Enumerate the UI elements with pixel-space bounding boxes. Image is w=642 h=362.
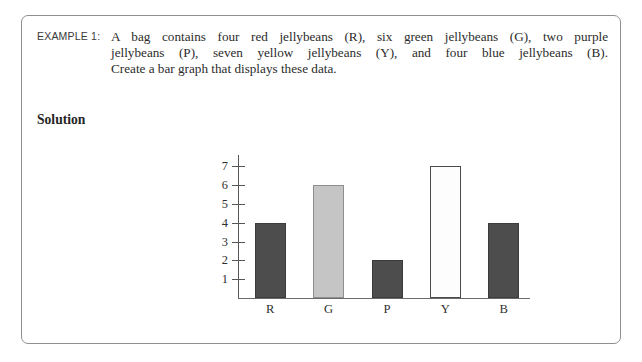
y-axis-label-4: 4: [198, 217, 228, 229]
y-axis-tick-3: [232, 242, 245, 243]
y-axis-tick-1: [232, 279, 245, 280]
page-canvas: EXAMPLE 1: A bag contains four red jelly…: [0, 0, 642, 362]
y-axis-label-3: 3: [198, 236, 228, 248]
y-axis-line: [238, 155, 239, 299]
bar-chart: 7654321 RGPYB: [196, 149, 516, 324]
example-label: EXAMPLE 1:: [37, 30, 100, 42]
example-container: EXAMPLE 1: A bag contains four red jelly…: [21, 15, 621, 344]
example-body-text: A bag contains four red jellybeans (R), …: [111, 29, 608, 78]
bar-p: [372, 260, 403, 298]
y-axis-tick-labels: 7654321: [196, 149, 228, 304]
bar-b: [488, 223, 519, 298]
y-axis-tick-4: [232, 223, 245, 224]
x-axis-label-p: P: [367, 303, 407, 316]
y-axis-label-5: 5: [198, 198, 228, 210]
y-axis-label-7: 7: [198, 160, 228, 172]
y-axis-label-1: 1: [198, 273, 228, 285]
y-axis-tick-2: [232, 260, 245, 261]
example-body-line-1: A bag contains four red jellybeans (R), …: [111, 29, 608, 45]
y-axis-label-2: 2: [198, 254, 228, 266]
x-axis-line: [238, 298, 530, 299]
x-axis-label-b: B: [484, 303, 524, 316]
bar-r: [255, 223, 286, 298]
y-axis-label-6: 6: [198, 179, 228, 191]
example-body-line-2: jellybeans (P), seven yellow jellybeans …: [111, 45, 608, 61]
x-axis-label-g: G: [309, 303, 349, 316]
bar-y: [430, 166, 461, 298]
y-axis-tick-5: [232, 204, 245, 205]
x-axis-label-r: R: [250, 303, 290, 316]
x-axis-label-y: Y: [425, 303, 465, 316]
bar-g: [313, 185, 344, 298]
solution-heading: Solution: [37, 112, 85, 128]
example-body-line-3: Create a bar graph that displays these d…: [111, 61, 608, 77]
y-axis-tick-7: [232, 166, 245, 167]
y-axis-tick-6: [232, 185, 245, 186]
